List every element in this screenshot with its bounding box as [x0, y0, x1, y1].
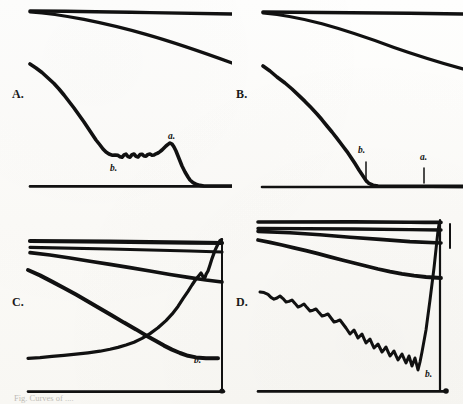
curve-c-top-flat-1 [30, 241, 222, 243]
curve-a-main-descending [30, 64, 232, 186]
figure-root: A. a. b. B. b. a. [0, 0, 463, 404]
panel-c: C. b. [0, 202, 232, 404]
panel-a-label-a: a. [168, 132, 175, 142]
curve-d-mid-declining-2 [258, 240, 441, 278]
caption-strip: Fig. Curves of .... [0, 395, 463, 404]
panel-a: A. a. b. [0, 0, 232, 202]
panel-b: B. b. a. [232, 0, 463, 202]
panel-b-label-a: a. [420, 153, 427, 163]
panel-a-label-b: b. [110, 164, 117, 174]
panel-c-letter: C. [12, 296, 24, 308]
curve-b-main-descending [263, 66, 463, 186]
curve-d-top-flat-1 [258, 222, 441, 223]
figure-caption-partial: Fig. Curves of .... [14, 395, 74, 403]
panel-b-plot [232, 0, 463, 202]
panel-d-letter: D. [236, 296, 248, 308]
curve-b-upper-declining [263, 13, 463, 69]
curve-a-upper-flat [30, 11, 232, 14]
panel-d-label-b: b. [425, 370, 432, 380]
panel-c-plot [0, 202, 232, 404]
curve-a-upper-declining [30, 12, 232, 63]
curve-b-upper-flat [263, 12, 463, 14]
curve-d-mid-declining-1 [258, 231, 441, 243]
panel-a-letter: A. [12, 88, 24, 100]
curve-d-top-flat-2 [258, 228, 441, 230]
panel-b-label-b: b. [358, 146, 365, 156]
curve-c-top-flat-2 [30, 247, 222, 252]
panel-c-label-b: b. [194, 356, 201, 366]
curve-c-mid-declining [30, 253, 222, 282]
panel-d: D. b. [232, 202, 463, 404]
panel-b-letter: B. [236, 88, 247, 100]
